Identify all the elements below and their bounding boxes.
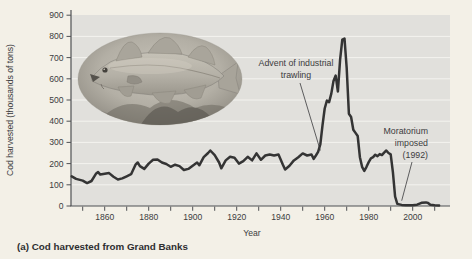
- figure-caption: (a) Cod harvested from Grand Banks: [17, 241, 188, 252]
- y-tick-label: 500: [49, 95, 64, 105]
- y-tick-label: 100: [49, 180, 64, 190]
- y-tick-label: 200: [49, 159, 64, 169]
- y-tick-label: 800: [49, 31, 64, 41]
- x-tick-label: 1960: [315, 212, 334, 222]
- x-tick-label: 1920: [227, 212, 246, 222]
- fish-eye: [102, 67, 107, 72]
- cod-harvest-chart: 0100200300400500600700800900 18601880190…: [0, 0, 472, 259]
- x-tick-label: 1940: [271, 212, 290, 222]
- x-tick-label: 1900: [183, 212, 202, 222]
- y-tick-label: 900: [49, 10, 64, 20]
- x-axis-title: Year: [243, 228, 261, 238]
- y-axis-title: Cod harvested (thousands of tons): [5, 44, 15, 176]
- y-tick-label: 400: [49, 116, 64, 126]
- y-tick-label: 300: [49, 137, 64, 147]
- y-tick-label: 600: [49, 74, 64, 84]
- x-tick-label: 1880: [139, 212, 158, 222]
- x-tick-label: 1860: [95, 212, 114, 222]
- figure: 0100200300400500600700800900 18601880190…: [0, 0, 472, 259]
- y-tick-label: 0: [59, 201, 64, 211]
- x-tick-label: 1980: [359, 212, 378, 222]
- y-tick-label: 700: [49, 53, 64, 63]
- x-tick-label: 2000: [403, 212, 422, 222]
